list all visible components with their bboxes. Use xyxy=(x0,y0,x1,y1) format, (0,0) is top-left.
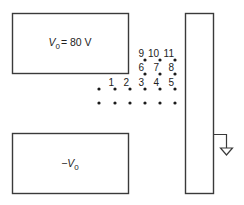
right-plate xyxy=(186,14,214,194)
point-6-label: 6 xyxy=(138,62,144,73)
diagram-canvas: V0= 80 V −V0 1234567891011 xyxy=(0,0,244,205)
point-9-label: 9 xyxy=(138,48,144,59)
grid-dot xyxy=(97,87,100,90)
point-4-label: 4 xyxy=(153,77,159,88)
point-11-label: 11 xyxy=(164,48,175,59)
point-7-label: 7 xyxy=(153,62,159,73)
point-2-label: 2 xyxy=(123,77,129,88)
grid-dot xyxy=(143,101,146,104)
grid-dot xyxy=(128,101,131,104)
grid-dot xyxy=(97,101,100,104)
ground-icon xyxy=(214,135,233,156)
point-3-label: 3 xyxy=(138,77,144,88)
grid-dot xyxy=(113,101,116,104)
point-1-label: 1 xyxy=(108,77,114,88)
grid-dot xyxy=(158,101,161,104)
point-8-label: 8 xyxy=(168,62,174,73)
point-5-label: 5 xyxy=(168,77,174,88)
point-10-label: 10 xyxy=(148,48,160,59)
grid-dot xyxy=(173,101,176,104)
